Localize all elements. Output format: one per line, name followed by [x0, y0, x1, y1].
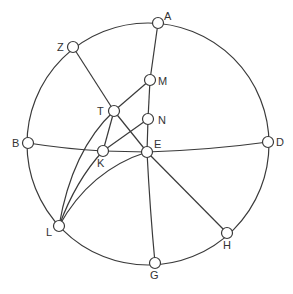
label-z: Z	[57, 41, 64, 53]
edge-e-g	[147, 152, 155, 263]
node-e	[142, 147, 153, 158]
node-m	[145, 75, 156, 86]
node-h	[222, 228, 233, 239]
edge-e-h	[147, 152, 227, 233]
edge-b-k	[28, 143, 103, 151]
label-t: T	[97, 105, 104, 117]
label-e: E	[154, 138, 161, 150]
label-m: M	[158, 75, 167, 87]
edge-a-m	[150, 23, 158, 80]
node-a	[153, 18, 164, 29]
nodes-group	[23, 18, 274, 269]
node-d	[263, 137, 274, 148]
edge-e-d	[147, 142, 268, 152]
label-a: A	[164, 10, 172, 22]
edge-l-t	[59, 111, 114, 226]
label-b: B	[12, 137, 19, 149]
node-g	[150, 258, 161, 269]
node-l	[54, 221, 65, 232]
node-b	[23, 138, 34, 149]
edge-k-n	[103, 119, 148, 151]
label-k: K	[97, 157, 105, 169]
edge-k-e	[103, 151, 147, 152]
node-k	[98, 146, 109, 157]
edge-z-t	[73, 47, 114, 111]
label-d: D	[276, 136, 284, 148]
node-t	[109, 106, 120, 117]
label-l: L	[46, 226, 52, 238]
edge-m-t	[114, 80, 150, 111]
label-n: N	[158, 114, 166, 126]
geometry-diagram: AZMTNBKEDLHG	[0, 0, 293, 294]
node-z	[68, 42, 79, 53]
node-n	[143, 114, 154, 125]
label-h: H	[223, 239, 231, 251]
label-g: G	[150, 269, 159, 281]
